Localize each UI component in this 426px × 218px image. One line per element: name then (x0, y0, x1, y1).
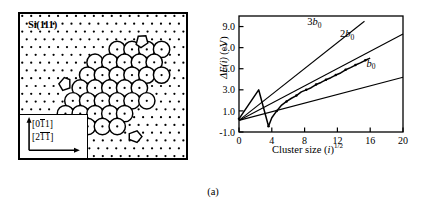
y-tick-label: 1.0 (223, 106, 236, 117)
y-tick-label: -1.0 (219, 127, 235, 138)
arrow-right-icon (74, 148, 80, 153)
data-marker (325, 79, 328, 82)
chart-axes (239, 16, 403, 132)
data-marker (344, 69, 347, 72)
data-marker (285, 100, 288, 103)
si111-lattice-panel: Si(111) [011] [211] (18, 12, 188, 160)
figure-a: Si(111) [011] [211] 048121620-1.01.03.05… (0, 0, 426, 218)
series-b_0 (239, 77, 403, 120)
data-marker (305, 89, 308, 92)
direction-label-0: [011] (32, 119, 53, 130)
data-marker (275, 110, 278, 113)
series-label: 3b0 (307, 16, 322, 30)
energy-vs-cluster-size-chart: 048121620-1.01.03.05.07.09.0 3b02b0b0 ΔE… (205, 8, 410, 160)
data-marker (315, 83, 318, 86)
crystal-direction-legend: [011] [211] (20, 114, 88, 158)
chart-series (238, 21, 403, 127)
data-marker (295, 94, 298, 97)
chart-ticks (239, 27, 403, 132)
arrow-up-icon (27, 117, 32, 123)
data-marker (267, 125, 270, 128)
series-label: b0 (367, 58, 376, 71)
chart-annotations: 3b02b0b0 (307, 16, 375, 71)
data-marker (238, 118, 241, 121)
figure-caption: (a) (0, 186, 426, 197)
chart-x-axis-label: Cluster size (i)1/2 (205, 142, 410, 155)
chart-svg: 048121620-1.01.03.05.07.09.0 3b02b0b0 (205, 8, 410, 160)
chart-y-axis-label: ΔE(i) (eV) (218, 18, 229, 98)
data-marker (354, 64, 357, 67)
si111-title: Si(111) (28, 19, 57, 30)
data-marker (335, 74, 338, 77)
direction-arrows (20, 115, 87, 158)
direction-label-1: [211] (32, 132, 53, 143)
